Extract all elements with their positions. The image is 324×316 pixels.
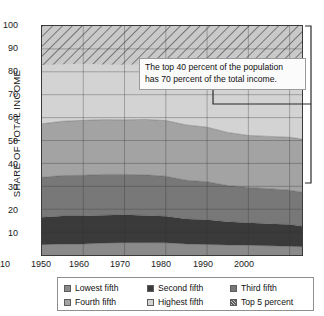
x-tick-1960: 1960 (59, 259, 99, 269)
x-tick-1990: 1990 (183, 259, 223, 269)
legend-label-second-fifth: Second fifth (158, 283, 203, 293)
x-tick-1950: 1950 (21, 259, 61, 269)
legend-swatch-second-fifth (147, 285, 154, 292)
y-tick-70: 70 (0, 89, 18, 99)
legend-swatch-third-fifth (230, 285, 237, 292)
y-tick-30: 30 (0, 182, 18, 192)
legend-item-highest-fifth[interactable]: Highest fifth (147, 297, 230, 307)
legend-item-top-5-percent[interactable]: Top 5 percent (230, 297, 313, 307)
legend-item-third-fifth[interactable]: Third fifth (230, 283, 313, 293)
legend-item-lowest-fifth[interactable]: Lowest fifth (64, 283, 147, 293)
x-tick-2000: 2000 (224, 259, 264, 269)
callout-line-2: has 70 percent of the total income. (145, 74, 301, 86)
legend-label-top-5-percent: Top 5 percent (241, 297, 293, 307)
legend-swatch-fourth-fifth (64, 299, 71, 306)
y-tick-100: 100 (0, 20, 18, 30)
legend-swatch-top-5-percent (230, 299, 237, 306)
legend-item-second-fifth[interactable]: Second fifth (147, 283, 230, 293)
y-tick-10: 10 (0, 228, 18, 238)
x-tick-2010: 2010 (0, 259, 20, 269)
legend-label-fourth-fifth: Fourth fifth (75, 297, 116, 307)
x-tick-1970: 1970 (100, 259, 140, 269)
y-tick-60: 60 (0, 112, 18, 122)
chart-container: SHARE OF TOTAL INCOME 100 90 80 70 60 50… (0, 0, 324, 316)
y-tick-20: 20 (0, 205, 18, 215)
y-tick-40: 40 (0, 159, 18, 169)
legend: Lowest fifth Second fifth Third fifth Fo… (57, 277, 314, 311)
y-axis-title: SHARE OF TOTAL INCOME (11, 34, 22, 234)
legend-row-2: Fourth fifth Highest fifth Top 5 percent (64, 295, 313, 309)
legend-row-1: Lowest fifth Second fifth Third fifth (64, 281, 313, 295)
legend-label-lowest-fifth: Lowest fifth (75, 283, 118, 293)
callout-line-1: The top 40 percent of the population (145, 62, 301, 74)
legend-label-third-fifth: Third fifth (241, 283, 277, 293)
x-tick-1980: 1980 (141, 259, 181, 269)
legend-item-fourth-fifth[interactable]: Fourth fifth (64, 297, 147, 307)
legend-swatch-highest-fifth (147, 299, 154, 306)
legend-swatch-lowest-fifth (64, 285, 71, 292)
y-tick-50: 50 (0, 136, 18, 146)
callout-box: The top 40 percent of the population has… (139, 58, 306, 90)
y-tick-80: 80 (0, 66, 18, 76)
legend-label-highest-fifth: Highest fifth (158, 297, 203, 307)
y-tick-90: 90 (0, 43, 18, 53)
